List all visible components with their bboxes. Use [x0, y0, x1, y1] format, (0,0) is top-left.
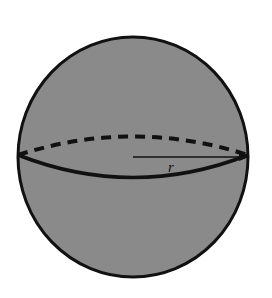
radius-label: r [168, 159, 174, 175]
sphere-diagram: r [0, 0, 272, 298]
